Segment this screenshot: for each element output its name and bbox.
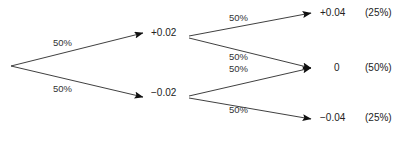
outcome-probability-down-down: (25%) — [365, 112, 392, 123]
outcome-value-mid: 0 — [334, 62, 340, 73]
edge-root-to-up — [11, 33, 143, 66]
edge-root-to-down — [11, 66, 143, 97]
edge-label-root-to-up: 50% — [53, 37, 72, 48]
node-label-up: +0.02 — [151, 27, 176, 38]
edge-label-up-to-upup: 50% — [229, 12, 248, 23]
outcome-probability-up-up: (25%) — [365, 7, 392, 18]
edge-down-to-downdown — [189, 98, 311, 119]
edge-up-to-upup — [189, 13, 311, 36]
outcome-value-up-up: +0.04 — [320, 7, 345, 18]
edge-label-up-to-mid: 50% — [229, 51, 248, 62]
edge-label-root-to-down: 50% — [53, 83, 72, 94]
edge-label-down-to-downdown: 50% — [229, 104, 248, 115]
edge-down-to-mid — [189, 68, 311, 96]
edge-label-down-to-mid: 50% — [229, 63, 248, 74]
outcome-probability-mid: (50%) — [365, 62, 392, 73]
outcome-value-down-down: −0.04 — [320, 112, 345, 123]
edge-up-to-mid — [189, 38, 311, 68]
node-label-down: −0.02 — [151, 87, 176, 98]
binomial-tree-diagram: 50% 50% +0.02 −0.02 50% 50% 50% 50% +0.0… — [0, 0, 401, 142]
